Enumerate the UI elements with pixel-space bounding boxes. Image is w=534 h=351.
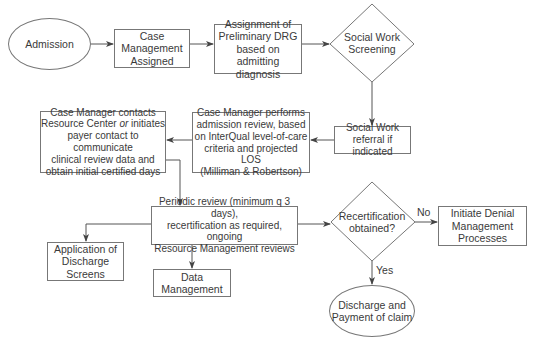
node-data-management: Data Management	[153, 269, 231, 297]
node-admission-label: Admission	[25, 38, 73, 51]
node-discharge-payment: Discharge and Payment of claim	[329, 285, 415, 337]
node-social-work-screening: Social Work Screening	[335, 28, 409, 58]
node-social-work-screening-label: Social Work Screening	[344, 31, 400, 56]
node-recertification-label: Recertification obtained?	[339, 210, 406, 235]
node-discharge-screens-label: Application of Discharge Screens	[54, 243, 117, 281]
arrow-periodic-to-discharge-screens	[86, 224, 151, 241]
node-drg-assignment-label: Assignment of Preliminary DRG based on a…	[215, 18, 301, 81]
node-discharge-screens: Application of Discharge Screens	[47, 242, 124, 281]
node-resource-center-contact-label: Case Manager contacts Resource Center or…	[41, 107, 165, 178]
node-discharge-payment-label: Discharge and Payment of claim	[332, 299, 413, 324]
edge-label-no: No	[417, 206, 430, 218]
node-social-work-referral: Social Work referral if indicated	[334, 126, 411, 154]
edge-label-yes: Yes	[376, 264, 393, 276]
node-admission-review: Case Manager performs admission review, …	[192, 112, 310, 173]
node-periodic-review: Periodic review (minimum q 3 days), rece…	[151, 206, 298, 245]
node-case-management-assigned-label: Case Management Assigned	[121, 30, 182, 68]
node-drg-assignment: Assignment of Preliminary DRG based on a…	[214, 24, 302, 74]
node-periodic-review-label: Periodic review (minimum q 3 days), rece…	[152, 196, 297, 255]
node-denial-management: Initiate Denial Management Processes	[438, 206, 527, 246]
node-admission-review-label: Case Manager performs admission review, …	[193, 107, 309, 178]
node-recertification: Recertification obtained?	[335, 207, 409, 237]
node-case-management-assigned: Case Management Assigned	[114, 29, 190, 68]
node-social-work-referral-label: Social Work referral if indicated	[335, 122, 410, 158]
node-admission: Admission	[8, 18, 91, 70]
node-data-management-label: Data Management	[161, 271, 222, 296]
text-italic-or: or	[119, 118, 128, 129]
node-resource-center-contact: Case Manager contacts Resource Center or…	[40, 111, 166, 173]
node-denial-management-label: Initiate Denial Management Processes	[451, 207, 515, 245]
